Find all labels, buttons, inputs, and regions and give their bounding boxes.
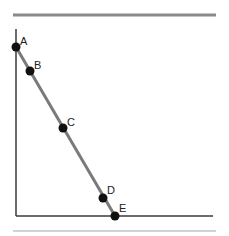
- diagram-canvas: ABCDE: [0, 0, 229, 236]
- point-label-a: A: [20, 35, 28, 47]
- point-label-c: C: [67, 116, 75, 128]
- point-label-d: D: [107, 184, 115, 196]
- line-diagram: ABCDE: [0, 0, 229, 236]
- points-group: ABCDE: [12, 35, 127, 221]
- point-label-e: E: [119, 202, 126, 214]
- point-label-b: B: [34, 59, 41, 71]
